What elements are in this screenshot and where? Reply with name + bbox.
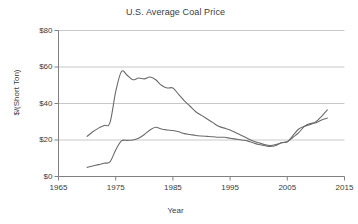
y-tick-label: $20 [19,135,53,144]
data-series-group [87,71,327,168]
x-tick-label: 1995 [213,183,247,192]
y-tick-label: $40 [19,99,53,108]
x-tick-label: 1965 [42,183,76,192]
y-tick-label: $60 [19,62,53,71]
x-tick-label: 2005 [270,183,304,192]
x-tick-label: 1975 [99,183,133,192]
y-tick-label: $0 [19,172,53,181]
y-tick-label: $80 [19,26,53,35]
axis-ticks [55,31,345,181]
x-tick-label: 2015 [328,183,358,192]
series-line-0 [87,71,327,146]
series-line-1 [87,118,327,167]
x-tick-label: 1985 [156,183,190,192]
gridlines [59,31,345,141]
